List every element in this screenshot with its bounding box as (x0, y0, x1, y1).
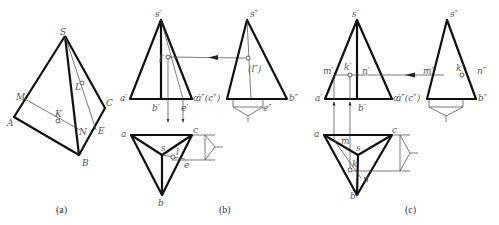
point-l-front (166, 55, 170, 59)
svg-text:k′: k′ (344, 62, 352, 72)
svg-text:s′: s′ (155, 9, 162, 19)
svg-text:s′: s′ (352, 9, 359, 19)
svg-text:k: k (352, 159, 357, 169)
svg-text:m: m (341, 136, 350, 146)
line-se-front (161, 20, 183, 99)
svg-text:s″: s″ (450, 9, 459, 19)
svg-text:n: n (363, 174, 369, 184)
svg-text:e″: e″ (263, 103, 272, 113)
label-S: S (60, 27, 66, 37)
svg-text:b′: b′ (358, 103, 366, 113)
point-l-top (171, 155, 175, 159)
svg-text:b″: b″ (289, 93, 299, 103)
label-B: B (81, 158, 89, 168)
label-A: A (6, 118, 14, 128)
svg-text:b: b (158, 198, 164, 208)
svg-text:n″: n″ (477, 66, 487, 76)
label-C: C (106, 98, 113, 108)
panel-b-side-view: s″ a″(c″) b″ (l″) e″ (196, 9, 299, 122)
svg-text:m′: m′ (323, 66, 334, 76)
svg-text:k″: k″ (456, 63, 465, 73)
label-K: K (54, 109, 63, 119)
caption-c: (c) (405, 204, 416, 216)
svg-text:e′: e′ (181, 103, 188, 113)
panel-b-top-view: a c s b e l (b) (121, 125, 231, 216)
arrow-right-icon (208, 55, 218, 60)
svg-text:b′: b′ (152, 103, 160, 113)
svg-text:e: e (184, 160, 189, 170)
pyramid-projection-figure: S M A K N B C E L (a) s′ a′ b′ c′ e′ l′ … (0, 0, 499, 225)
svg-text:c: c (193, 125, 198, 135)
label-E: E (97, 126, 105, 136)
panel-c-side-view: s″ a″(c″) b″ m″ k″ n″ (396, 9, 488, 122)
svg-text:m″: m″ (423, 66, 436, 76)
svg-text:l′: l′ (159, 54, 164, 64)
label-N: N (78, 127, 88, 137)
svg-text:n′: n′ (362, 66, 370, 76)
svg-text:s: s (356, 143, 361, 153)
svg-text:s″: s″ (250, 9, 259, 19)
caption-a: (a) (56, 204, 67, 216)
svg-text:a″(c″): a″(c″) (196, 93, 221, 103)
pyramid-outline (14, 36, 105, 155)
svg-text:b″: b″ (478, 93, 488, 103)
caption-b: (b) (219, 204, 231, 216)
panel-b-front-view: s′ a′ b′ c′ e′ l′ (120, 9, 245, 122)
panel-a-pictorial: S M A K N B C E L (a) (6, 27, 113, 216)
svg-text:a: a (314, 129, 319, 139)
point-k (56, 119, 60, 123)
svg-text:(l″): (l″) (248, 64, 262, 74)
svg-text:a″(c″): a″(c″) (396, 93, 421, 103)
label-M: M (15, 92, 26, 102)
svg-text:s: s (161, 143, 166, 153)
arrow-right-icon (405, 73, 415, 78)
line-mn (23, 98, 80, 130)
point-k-side (460, 73, 464, 77)
svg-text:b: b (350, 191, 356, 201)
edge-sb (65, 36, 79, 155)
svg-text:a′: a′ (120, 93, 127, 103)
point-k-front (348, 73, 352, 77)
svg-text:c: c (392, 125, 397, 135)
svg-text:l: l (176, 147, 179, 157)
point-l-side (246, 56, 250, 60)
panel-c-front-view: s′ a′ b′ c′ m′ k′ n′ (315, 9, 444, 113)
panel-c-top-view: a c s b m k n (c) (314, 102, 418, 216)
svg-text:a′: a′ (315, 93, 322, 103)
svg-text:a: a (121, 129, 126, 139)
label-L: L (74, 82, 81, 92)
